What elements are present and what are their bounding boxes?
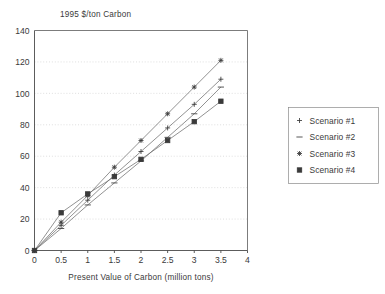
y-tick-label: 0 xyxy=(25,246,30,256)
series-line-2 xyxy=(35,87,221,250)
y-tick-label: 60 xyxy=(20,151,30,161)
chart-figure: 1995 $/ton Carbon02040608010012014000.51… xyxy=(0,0,385,294)
x-tick-label: 3 xyxy=(192,255,197,265)
x-tick-label: 3.5 xyxy=(215,255,227,265)
series-4-point xyxy=(192,119,196,123)
series-3-point xyxy=(59,220,64,225)
y-tick-label: 100 xyxy=(15,89,30,99)
x-tick-label: 4 xyxy=(245,255,250,265)
series-4-point xyxy=(219,99,223,103)
series-3-point xyxy=(139,138,144,143)
x-axis-label: Present Value of Carbon (million tons) xyxy=(68,273,213,282)
series-line-1 xyxy=(35,79,221,250)
legend-label-1[interactable]: Scenario #1 xyxy=(310,116,356,126)
series-4-point xyxy=(32,248,36,252)
x-tick-label: 2.5 xyxy=(162,255,174,265)
x-tick-label: 0 xyxy=(32,255,37,265)
legend-marker-3 xyxy=(297,151,302,156)
series-4-point xyxy=(112,174,116,178)
line-chart: 1995 $/ton Carbon02040608010012014000.51… xyxy=(0,0,385,294)
series-3-point xyxy=(165,111,170,116)
series-4-point xyxy=(86,192,90,196)
chart-title: 1995 $/ton Carbon xyxy=(60,10,131,19)
y-tick-label: 140 xyxy=(15,26,30,36)
y-tick-label: 40 xyxy=(20,183,30,193)
y-tick-label: 20 xyxy=(20,214,30,224)
x-tick-label: 0.5 xyxy=(55,255,67,265)
series-3-point xyxy=(192,85,197,90)
legend-marker-4 xyxy=(297,168,301,172)
x-tick-label: 1 xyxy=(85,255,90,265)
x-tick-label: 1.5 xyxy=(108,255,120,265)
legend-label-4[interactable]: Scenario #4 xyxy=(310,165,356,175)
series-3-point xyxy=(218,58,223,63)
series-4-point xyxy=(165,138,169,142)
series-3-point xyxy=(112,165,117,170)
series-4-point xyxy=(59,211,63,215)
x-tick-label: 2 xyxy=(139,255,144,265)
legend-label-3[interactable]: Scenario #3 xyxy=(310,149,356,159)
series-4-point xyxy=(139,157,143,161)
y-tick-label: 80 xyxy=(20,120,30,130)
y-tick-label: 120 xyxy=(15,57,30,67)
legend-label-2[interactable]: Scenario #2 xyxy=(310,132,356,142)
